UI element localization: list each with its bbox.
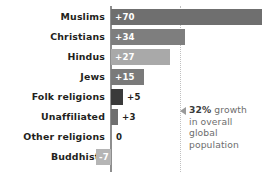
- table-row: Christians +34: [0, 27, 271, 47]
- bar-value-hindus: +27: [115, 49, 135, 65]
- bar-value-muslims: +70: [115, 9, 135, 25]
- plot-area: Muslims +70 Christians +34 Hindus +27 Je…: [0, 0, 271, 180]
- bar-value-other-religions: 0: [116, 129, 122, 145]
- category-label-christians: Christians: [50, 27, 105, 47]
- category-label-other-religions: Other religions: [23, 127, 105, 147]
- annotation-line-3: global: [189, 127, 218, 138]
- table-row: Hindus +27: [0, 47, 271, 67]
- category-label-unaffiliated: Unaffiliated: [41, 107, 105, 127]
- bar-value-unaffiliated: +3: [122, 109, 136, 125]
- bar-value-christians: +34: [115, 29, 135, 45]
- annotation-growth-word: growth: [211, 104, 247, 115]
- table-row: Muslims +70: [0, 7, 271, 27]
- table-row: Jews +15: [0, 67, 271, 87]
- bar-folk-religions: [111, 89, 123, 105]
- category-label-jews: Jews: [80, 67, 105, 87]
- annotation-text: 32% growth in overall global population: [189, 104, 247, 150]
- bar-unaffiliated: [111, 109, 118, 125]
- category-label-hindus: Hindus: [67, 47, 105, 67]
- category-label-muslims: Muslims: [61, 7, 105, 27]
- annotation-percent: 32%: [189, 104, 211, 115]
- bar-value-buddhists: -7: [99, 149, 109, 165]
- bar-value-jews: +15: [115, 69, 135, 85]
- religion-growth-bar-chart: Muslims +70 Christians +34 Hindus +27 Je…: [0, 0, 271, 180]
- annotation-line-2: in overall: [189, 116, 233, 127]
- annotation-line-4: population: [189, 139, 239, 150]
- left-triangle-icon: [180, 107, 186, 115]
- bar-value-folk-religions: +5: [127, 89, 141, 105]
- growth-annotation: 32% growth in overall global population: [180, 104, 268, 150]
- category-label-folk-religions: Folk religions: [32, 87, 105, 107]
